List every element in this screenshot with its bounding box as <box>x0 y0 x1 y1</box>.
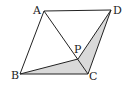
shaded-triangle-pcd <box>78 10 111 74</box>
segment-ab <box>20 11 44 74</box>
label-b: B <box>11 69 19 82</box>
segment-da <box>44 10 111 11</box>
label-d: D <box>113 4 122 17</box>
parallelogram-diagram: A D P B C <box>0 0 134 96</box>
label-p: P <box>74 43 82 56</box>
label-c: C <box>89 70 97 83</box>
label-a: A <box>32 4 42 17</box>
